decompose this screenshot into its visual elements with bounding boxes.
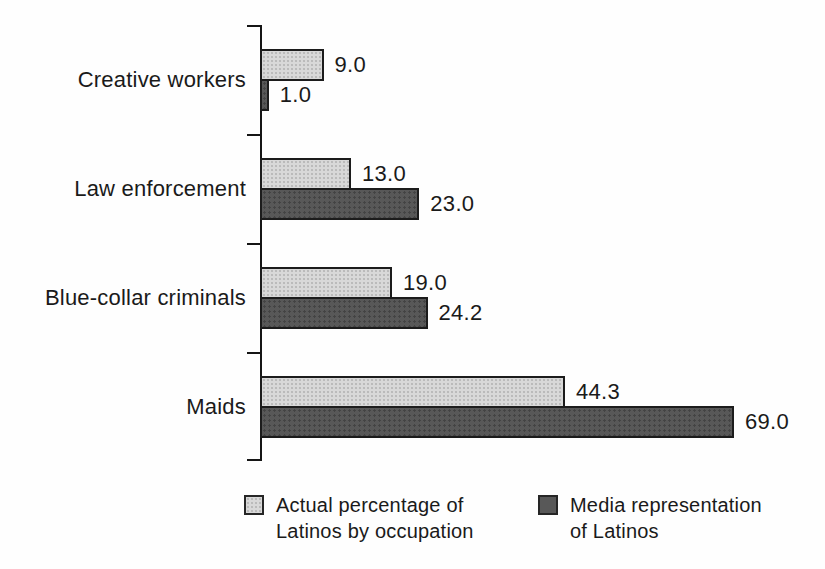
bar-group: 19.024.2 (260, 243, 483, 352)
legend-swatch-actual-percentage (244, 495, 264, 515)
legend-label-actual-percentage: Actual percentage of Latinos by occupati… (276, 492, 474, 544)
bar-value-label: 23.0 (430, 191, 474, 217)
legend-item-media-representation: Media representation of Latinos (538, 492, 762, 544)
legend-label-actual-line2: Latinos by occupation (276, 520, 474, 542)
bar-group: 44.369.0 (260, 352, 789, 461)
bar-value-label: 24.2 (439, 300, 483, 326)
category-label: Law enforcement (0, 134, 246, 243)
bar-media-representation (260, 297, 428, 329)
bar-media-representation (260, 406, 734, 438)
bar-line: 24.2 (260, 297, 483, 329)
legend-label-media-line2: of Latinos (570, 520, 659, 542)
bar-value-label: 19.0 (403, 270, 447, 296)
bar-line: 69.0 (260, 406, 789, 438)
plot-area: Creative workers9.01.0Law enforcement13.… (0, 25, 825, 461)
category-label: Maids (0, 352, 246, 461)
bar-actual-percentage (260, 267, 392, 299)
bar-line: 23.0 (260, 188, 474, 220)
category-label: Creative workers (0, 25, 246, 134)
bar-line: 19.0 (260, 267, 483, 299)
bar-actual-percentage (260, 49, 324, 81)
legend-item-actual-percentage: Actual percentage of Latinos by occupati… (244, 492, 474, 544)
grouped-bar-chart-figure: Creative workers9.01.0Law enforcement13.… (0, 0, 825, 569)
category-row: Maids44.369.0 (0, 352, 825, 461)
bar-value-label: 44.3 (576, 379, 620, 405)
legend-swatch-media-representation (538, 495, 558, 515)
bar-media-representation (260, 79, 269, 111)
legend-label-media-line1: Media representation (570, 494, 762, 516)
bar-value-label: 13.0 (362, 161, 406, 187)
legend-label-actual-line1: Actual percentage of (276, 494, 463, 516)
category-label: Blue-collar criminals (0, 243, 246, 352)
bar-actual-percentage (260, 376, 565, 408)
legend: Actual percentage of Latinos by occupati… (0, 492, 825, 562)
bar-line: 44.3 (260, 376, 789, 408)
bar-media-representation (260, 188, 419, 220)
bar-line: 13.0 (260, 158, 474, 190)
bar-line: 9.0 (260, 49, 366, 81)
bar-value-label: 1.0 (280, 82, 311, 108)
bar-group: 9.01.0 (260, 25, 366, 134)
bar-actual-percentage (260, 158, 351, 190)
category-row: Blue-collar criminals19.024.2 (0, 243, 825, 352)
bar-value-label: 69.0 (745, 409, 789, 435)
legend-label-media-representation: Media representation of Latinos (570, 492, 762, 544)
bar-line: 1.0 (260, 79, 366, 111)
bar-group: 13.023.0 (260, 134, 474, 243)
bar-value-label: 9.0 (335, 52, 366, 78)
category-row: Law enforcement13.023.0 (0, 134, 825, 243)
category-row: Creative workers9.01.0 (0, 25, 825, 134)
